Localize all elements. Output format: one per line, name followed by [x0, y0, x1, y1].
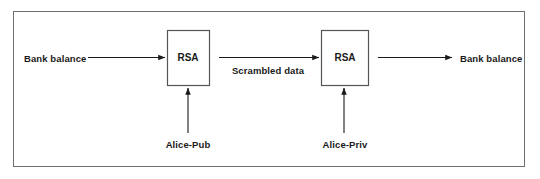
- input-plaintext-label: Bank balance: [24, 53, 86, 64]
- rsa-decrypt-box-label: RSA: [334, 52, 355, 63]
- diagram-canvas: RSA RSA Bank balance Scrambled data Bank…: [0, 0, 540, 179]
- diagram-connectors: [0, 0, 540, 179]
- output-plaintext-label: Bank balance: [460, 53, 522, 64]
- public-key-label: Alice-Pub: [166, 139, 211, 150]
- ciphertext-label: Scrambled data: [232, 65, 304, 76]
- private-key-label: Alice-Priv: [323, 139, 368, 150]
- rsa-encrypt-box-label: RSA: [177, 52, 198, 63]
